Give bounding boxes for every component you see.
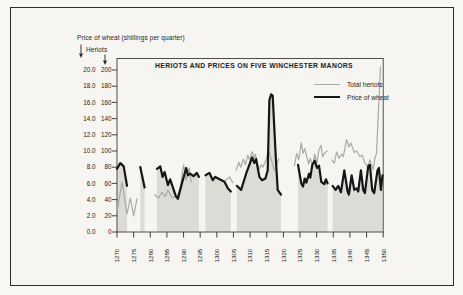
svg-text:8.0: 8.0 (87, 163, 96, 170)
svg-text:14.0: 14.0 (83, 115, 96, 122)
svg-text:1330: 1330 (313, 248, 320, 262)
svg-text:80: 80 (104, 163, 112, 170)
wheat-axis-pointer-label: Price of wheat (shillings per quarter) (77, 34, 185, 41)
chart-title: HERIOTS AND PRICES ON FIVE WINCHESTER MA… (155, 62, 353, 69)
svg-text:200: 200 (101, 66, 112, 73)
svg-text:16.0: 16.0 (83, 99, 96, 106)
svg-text:1300: 1300 (213, 248, 220, 262)
svg-text:20: 20 (104, 212, 112, 219)
svg-text:100: 100 (101, 147, 112, 154)
svg-text:120: 120 (101, 131, 112, 138)
svg-text:1270: 1270 (113, 248, 120, 262)
legend-label-price-of-wheat: Price of wheat (347, 94, 389, 101)
svg-text:40: 40 (104, 196, 112, 203)
svg-text:1285: 1285 (163, 248, 170, 262)
x-axis: 1270127512801285129012951300130513101315… (113, 232, 386, 263)
svg-text:1335: 1335 (330, 248, 337, 262)
svg-text:1280: 1280 (147, 248, 154, 262)
svg-text:160: 160 (101, 99, 112, 106)
svg-text:1295: 1295 (196, 248, 203, 262)
svg-text:20.0: 20.0 (83, 66, 96, 73)
svg-text:6.0: 6.0 (87, 180, 96, 187)
svg-text:0.0: 0.0 (87, 228, 96, 235)
svg-text:1290: 1290 (180, 248, 187, 262)
y-axis: 00.0202.0404.0606.0808.010010.012012.014… (83, 66, 117, 235)
svg-text:1340: 1340 (346, 248, 353, 262)
svg-text:140: 140 (101, 115, 112, 122)
svg-text:10.0: 10.0 (83, 147, 96, 154)
book-figure-page: 00.0202.0404.0606.0808.010010.012012.014… (0, 0, 463, 295)
svg-text:2.0: 2.0 (87, 212, 96, 219)
down-arrow-icon (103, 61, 107, 66)
chart-canvas: 00.0202.0404.0606.0808.010010.012012.014… (0, 0, 463, 295)
down-arrow-icon (79, 54, 83, 59)
svg-text:1275: 1275 (130, 248, 137, 262)
legend-label-total-heriots: Total heriots (347, 81, 383, 88)
svg-text:1315: 1315 (263, 248, 270, 262)
svg-text:1325: 1325 (296, 248, 303, 262)
legend-entry-price-of-wheat: Price of wheat (314, 94, 389, 101)
svg-text:1305: 1305 (230, 248, 237, 262)
total-heriots-line-icon (314, 84, 340, 85)
legend-entry-total-heriots: Total heriots (314, 81, 383, 88)
svg-text:60: 60 (104, 180, 112, 187)
svg-text:1310: 1310 (246, 248, 253, 262)
svg-text:1345: 1345 (363, 248, 370, 262)
svg-text:1350: 1350 (380, 248, 387, 262)
svg-text:1320: 1320 (280, 248, 287, 262)
svg-text:12.0: 12.0 (83, 131, 96, 138)
svg-text:180: 180 (101, 82, 112, 89)
price-of-wheat-line-icon (314, 96, 340, 98)
svg-text:18.0: 18.0 (83, 82, 96, 89)
svg-text:0: 0 (108, 228, 112, 235)
svg-text:4.0: 4.0 (87, 196, 96, 203)
heriots-axis-pointer-label: Heriots (86, 46, 107, 53)
